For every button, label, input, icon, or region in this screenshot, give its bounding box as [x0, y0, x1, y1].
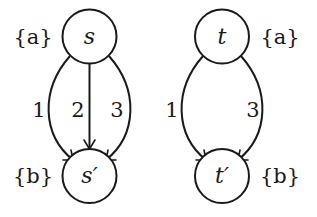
- node-s-label: s: [84, 24, 95, 49]
- node-s-prime: s′: [63, 149, 117, 203]
- right-graph: t t′ {a} {b} 1 3: [165, 10, 300, 204]
- node-t-prime-label: t′: [215, 163, 229, 188]
- node-t-label: t: [218, 24, 227, 49]
- set-label-t: {a}: [260, 25, 299, 49]
- set-label-s: {a}: [13, 25, 52, 49]
- left-graph: s s′ {a} {b} 1 2 3: [13, 10, 130, 204]
- edge-label-3: 3: [246, 98, 259, 122]
- edge-label-2: 2: [71, 98, 84, 122]
- edge-t-to-t-prime-1: [182, 56, 206, 160]
- edge-s-to-s-prime-1: [49, 56, 73, 160]
- edge-label-1: 1: [32, 98, 45, 122]
- set-label-s-prime: {b}: [13, 164, 53, 188]
- node-s-prime-label: s′: [81, 163, 97, 188]
- set-label-t-prime: {b}: [260, 164, 300, 188]
- edge-label-3: 3: [110, 98, 123, 122]
- node-t: t: [195, 10, 249, 64]
- node-t-prime: t′: [195, 149, 249, 203]
- edge-label-1: 1: [165, 98, 178, 122]
- node-s: s: [63, 10, 117, 64]
- diagram-canvas: s s′ {a} {b} 1 2 3 t t′ {a} {b}: [0, 0, 317, 217]
